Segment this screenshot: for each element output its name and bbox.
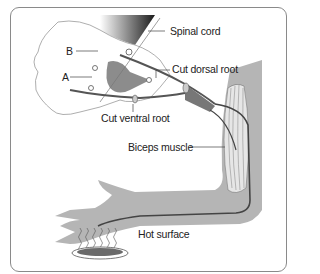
label-b: B [66,45,73,57]
label-cut-dorsal-root: Cut dorsal root [172,63,238,75]
label-cut-ventral-root: Cut ventral root [101,112,170,124]
label-spinal-cord: Spinal cord [170,25,220,37]
label-biceps-muscle: Biceps muscle [128,141,193,153]
label-a: A [62,71,69,83]
nerve-trunk [185,84,215,112]
biceps-muscle [224,84,249,192]
label-hot-surface: Hot surface [138,228,190,240]
